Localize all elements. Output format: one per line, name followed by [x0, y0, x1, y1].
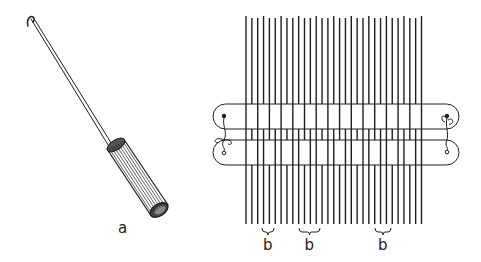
- group-label-b: b: [305, 238, 315, 253]
- group-braces: [262, 228, 391, 235]
- fluted-handle: [105, 135, 171, 220]
- weaving-illustration: [0, 0, 481, 262]
- group-label-b: b: [263, 238, 273, 253]
- warp-and-sticks: [213, 16, 459, 235]
- label-a: a: [118, 221, 127, 236]
- group-label-b: b: [378, 238, 388, 253]
- hook-tool-icon: [27, 17, 170, 221]
